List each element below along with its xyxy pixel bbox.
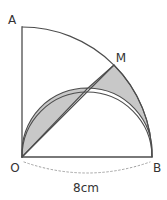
label-b: B: [153, 161, 161, 175]
measurement-dashed-arc: [24, 162, 150, 173]
label-m: M: [116, 51, 126, 65]
label-a: A: [8, 13, 17, 27]
label-o: O: [10, 161, 19, 175]
measurement-label: 8cm: [73, 181, 99, 195]
right-shaded-region: [88, 65, 152, 157]
segment-om: [22, 65, 114, 157]
geometry-figure: A M O B 8cm: [0, 0, 167, 200]
geometry-diagram: A M O B 8cm: [0, 0, 167, 200]
